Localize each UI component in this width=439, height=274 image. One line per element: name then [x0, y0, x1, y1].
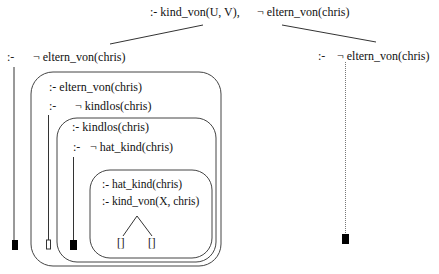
- box3-query2: :- kind_von(X, chris): [102, 195, 199, 208]
- failure-leaf-icon: [70, 240, 77, 250]
- root-goal-part1: :- kind_von(U, V),: [150, 6, 240, 19]
- edge-root-left: [110, 25, 203, 44]
- failure-leaf-icon: [342, 234, 349, 244]
- root-goal-part2: ¬ eltern_von(chris): [257, 6, 349, 19]
- edge-root-right: [282, 25, 376, 42]
- left-branch-goal: ¬ eltern_von(chris): [33, 51, 125, 64]
- box1-goal: ¬ kindlos(chris): [75, 100, 151, 113]
- edge-box3-right: [137, 216, 152, 236]
- box2-goal: ¬ hat_kind(chris): [90, 141, 173, 154]
- sld-tree-diagram: :- kind_von(U, V), ¬ eltern_von(chris) :…: [0, 0, 439, 274]
- box1-query: :- eltern_von(chris): [49, 81, 142, 94]
- box2-prefix: :-: [73, 141, 80, 154]
- box2-query: :- kindlos(chris): [72, 121, 149, 134]
- box1-prefix: :-: [49, 100, 56, 113]
- box3-query1: :- hat_kind(chris): [102, 178, 182, 191]
- box3-leaf-right: []: [148, 237, 156, 250]
- right-branch-prefix: :-: [318, 50, 325, 63]
- failure-leaf-icon: [12, 240, 18, 250]
- right-branch-goal: ¬ eltern_von(chris): [337, 50, 429, 63]
- diagram-graphics: [0, 0, 439, 274]
- box3-leaf-left: []: [117, 237, 125, 250]
- edge-box3-left: [123, 216, 137, 236]
- success-leaf-icon: [47, 240, 51, 249]
- left-branch-prefix: :-: [7, 51, 14, 64]
